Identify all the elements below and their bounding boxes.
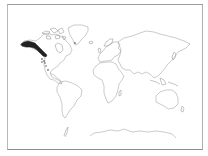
occurrence-point xyxy=(47,69,49,71)
north-america-outline xyxy=(20,33,72,84)
madagascar-outline xyxy=(119,90,121,96)
antarctic-peninsula-outline xyxy=(64,127,68,137)
world-map xyxy=(0,0,208,156)
new-zealand-outline xyxy=(181,106,184,112)
southeast-asia-islands-outline xyxy=(150,78,178,86)
south-america-outline xyxy=(57,81,82,118)
occurrence-point xyxy=(74,42,76,44)
japan-outline xyxy=(172,52,176,60)
occurrence-point xyxy=(44,62,45,63)
occurrence-point xyxy=(41,58,43,60)
australia-outline xyxy=(156,90,178,109)
asia-outline xyxy=(118,31,190,78)
occurrence-point xyxy=(43,60,45,62)
iceland-outline xyxy=(89,41,93,44)
map-canvas xyxy=(0,0,208,156)
arctic-islands-outline xyxy=(42,28,66,40)
greenland-outline xyxy=(68,25,88,45)
africa-outline xyxy=(93,62,124,103)
hudson-bay-outline xyxy=(55,43,63,53)
antarctica-outline xyxy=(90,129,176,138)
occurrence-point xyxy=(45,65,46,66)
british-isles-outline xyxy=(98,48,101,53)
occurrence-point xyxy=(41,61,42,62)
